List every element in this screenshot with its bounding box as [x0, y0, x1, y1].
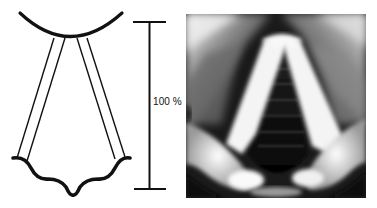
left-fold-outer: [17, 38, 54, 158]
laryngoscopic-image: [186, 14, 366, 198]
figure: 100 %: [0, 0, 377, 208]
left-fold-inner: [27, 38, 65, 161]
scale-bar-label: 100 %: [153, 96, 182, 107]
top-arc: [20, 13, 122, 37]
laryngoscopic-image-render: [186, 14, 366, 198]
right-fold-outer: [87, 38, 125, 157]
bottom-scallop: [13, 158, 130, 195]
right-fold-inner: [77, 38, 115, 159]
